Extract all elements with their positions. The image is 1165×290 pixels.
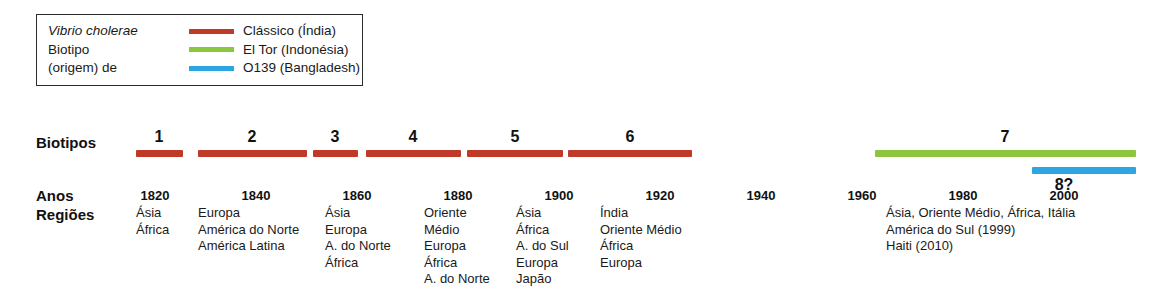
region-line: África [136,222,169,239]
region-column-1900: ÁsiaÁfricaA. do SulEuropaJapão [516,205,569,288]
region-line: América do Norte [198,222,299,239]
region-line: Ásia, Oriente Médio, África, Itália [886,205,1075,222]
pandemic-bar-2 [198,150,307,157]
year-tick-1980: 1980 [949,188,978,203]
pandemic-bar-4 [366,150,461,157]
region-line: Ásia [136,205,169,222]
pandemic-bar-1 [136,150,183,157]
year-tick-1900: 1900 [545,188,574,203]
region-line: Oriente [424,205,490,222]
region-line: América Latina [198,238,299,255]
pandemic-number-2: 2 [248,128,257,146]
region-line: Ásia [516,205,569,222]
region-line: África [325,255,391,272]
region-column-1920: ÍndiaOriente MédioÁfricaEuropa [600,205,682,271]
year-tick-1820: 1820 [141,188,170,203]
pandemic-number-1: 1 [155,128,164,146]
region-line: África [516,222,569,239]
region-column-1820: ÁsiaÁfrica [136,205,169,238]
cholera-pandemic-timeline-figure: Vibrio cholerae Biotipo (origem) de Clás… [0,0,1165,290]
pandemic-number-5: 5 [511,128,520,146]
region-column-1840: EuropaAmérica do NorteAmérica Latina [198,205,299,255]
region-line: Europa [424,238,490,255]
pandemic-number-7: 7 [1001,128,1010,146]
region-line: Índia [600,205,682,222]
region-line: Oriente Médio [600,222,682,239]
region-column-1860: ÁsiaEuropaA. do NorteÁfrica [325,205,391,271]
year-tick-1920: 1920 [646,188,675,203]
pandemic-bar-6 [568,150,692,157]
year-tick-1880: 1880 [444,188,473,203]
region-line: África [424,255,490,272]
year-tick-1960: 1960 [848,188,877,203]
region-line: Haiti (2010) [886,238,1075,255]
pandemic-number-4: 4 [409,128,418,146]
region-line: Europa [198,205,299,222]
pandemic-number-6: 6 [626,128,635,146]
region-line: África [600,238,682,255]
region-line: A. do Sul [516,238,569,255]
pandemic-bar-8 [1032,167,1136,174]
year-tick-2000: 2000 [1050,188,1079,203]
year-tick-1840: 1840 [242,188,271,203]
region-block-modern: Ásia, Oriente Médio, África, ItáliaAméri… [886,205,1075,255]
region-line: Médio [424,222,490,239]
region-line: Europa [325,222,391,239]
region-column-1880: OrienteMédioEuropaÁfricaA. do Norte [424,205,490,288]
region-line: América do Sul (1999) [886,222,1075,239]
pandemic-bar-3 [313,150,358,157]
pandemic-bar-7 [875,150,1136,157]
region-line: Europa [516,255,569,272]
year-tick-1940: 1940 [747,188,776,203]
year-tick-1860: 1860 [343,188,372,203]
region-line: Japão [516,271,569,288]
region-line: A. do Norte [325,238,391,255]
region-line: Europa [600,255,682,272]
pandemic-bar-5 [467,150,563,157]
timeline-plot: 12345678? 182018401860188019001920194019… [0,0,1165,290]
pandemic-number-3: 3 [331,128,340,146]
region-line: A. do Norte [424,271,490,288]
region-line: Ásia [325,205,391,222]
